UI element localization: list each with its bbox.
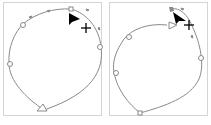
left-panel	[3, 2, 102, 116]
arrow-cursor-icon	[69, 13, 80, 25]
left-path-drawing	[4, 3, 103, 117]
direction-ticks	[29, 9, 100, 30]
right-path-drawing	[110, 3, 209, 117]
crosshair-icon	[81, 23, 91, 33]
direction-arrow-icon	[37, 104, 47, 111]
anchor-points	[8, 7, 103, 67]
selected-anchor	[169, 7, 174, 12]
anchor-points	[114, 35, 204, 116]
crosshair-icon	[184, 20, 194, 30]
right-panel	[109, 2, 208, 116]
